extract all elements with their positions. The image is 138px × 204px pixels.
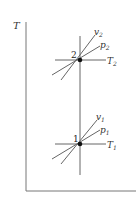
state-label-1: 1 (73, 134, 79, 144)
state-point-2 (78, 58, 83, 63)
state-2: 2 T2 p2 v2 (52, 27, 117, 80)
state-1: 1 T1 p1 v1 (52, 112, 117, 164)
v1-label: v1 (96, 112, 105, 123)
state-label-2: 2 (71, 50, 77, 60)
isochore-v2 (61, 35, 95, 80)
p2-label: p2 (100, 40, 110, 51)
y-axis-label: T (13, 20, 21, 31)
p1-label: p1 (100, 125, 110, 136)
t1-label: T1 (107, 140, 117, 151)
state-diagram: T 2 T2 p2 v2 1 T1 p1 v1 (0, 0, 138, 204)
v2-label: v2 (94, 27, 103, 38)
t2-label: T2 (107, 56, 117, 67)
